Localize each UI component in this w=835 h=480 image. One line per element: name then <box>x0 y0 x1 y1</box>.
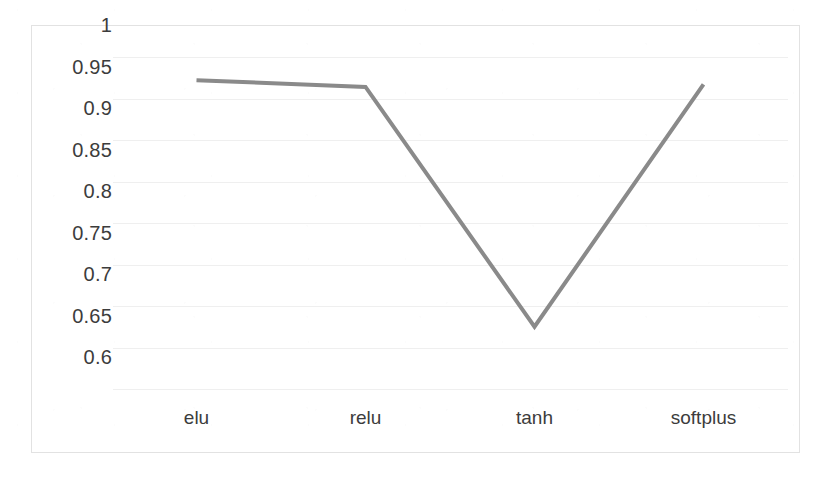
y-tick-label: 0.9 <box>0 98 112 118</box>
x-tick-label: tanh <box>516 408 553 427</box>
y-tick-label: 1 <box>0 15 112 35</box>
x-tick-label: softplus <box>671 408 736 427</box>
y-tick-label: 0.65 <box>0 306 112 326</box>
line-series-path <box>197 80 704 327</box>
y-tick-label: 0.95 <box>0 57 112 77</box>
x-tick-label: elu <box>184 408 209 427</box>
x-axis: elurelutanhsoftplus <box>31 408 800 442</box>
y-tick-label: 0.75 <box>0 223 112 243</box>
chart-figure: 10.950.90.850.80.750.70.650.6 elurelutan… <box>0 0 835 480</box>
x-tick-label: relu <box>350 408 382 427</box>
line-series-svg <box>112 57 788 389</box>
y-axis: 10.950.90.850.80.750.70.650.6 <box>0 25 112 453</box>
plot-area <box>112 57 788 389</box>
y-tick-label: 0.85 <box>0 140 112 160</box>
y-tick-label: 0.7 <box>0 264 112 284</box>
y-tick-label: 0.8 <box>0 181 112 201</box>
y-tick-label: 0.6 <box>0 347 112 367</box>
